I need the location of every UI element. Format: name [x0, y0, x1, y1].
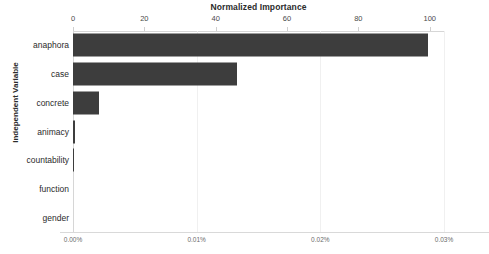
plot-bottom-rule: [60, 232, 489, 233]
bar-anaphora: [73, 34, 428, 57]
top-axis-tick-label: 60: [283, 14, 291, 23]
top-axis-tick-label: 0: [71, 14, 75, 23]
importance-bar-chart: Normalized Importance Independent Variab…: [0, 0, 489, 254]
category-label-animacy: animacy: [37, 127, 69, 137]
top-axis-tick-mark: [430, 27, 431, 31]
top-axis-tick-mark: [216, 27, 217, 31]
gridline: [197, 31, 198, 232]
bar-concrete: [73, 91, 99, 114]
top-axis-tick-mark: [144, 27, 145, 31]
category-label-gender: gender: [43, 213, 69, 223]
bottom-axis-tick-label: 0.02%: [311, 236, 329, 243]
category-label-countability: countability: [26, 155, 69, 165]
category-label-function: function: [39, 184, 69, 194]
top-axis-tick-label: 80: [354, 14, 362, 23]
gridline: [444, 31, 445, 232]
top-axis-tick-label: 20: [140, 14, 148, 23]
top-axis-tick-mark: [73, 27, 74, 31]
bar-case: [73, 63, 237, 86]
bar-animacy: [73, 120, 75, 143]
category-label-case: case: [51, 69, 69, 79]
category-label-concrete: concrete: [36, 98, 69, 108]
top-axis-tick-mark: [358, 27, 359, 31]
bottom-axis-tick-label: 0.01%: [187, 236, 205, 243]
top-axis-tick-label: 40: [212, 14, 220, 23]
bottom-axis-tick-label: 0.03%: [435, 236, 453, 243]
top-axis-tick-label: 100: [423, 14, 436, 23]
plot-area: [73, 31, 444, 232]
y-axis-title: Independent Variable: [11, 43, 20, 163]
bar-countability: [73, 149, 74, 172]
top-axis-tick-mark: [287, 27, 288, 31]
category-label-anaphora: anaphora: [33, 40, 69, 50]
gridline: [320, 31, 321, 232]
chart-title: Normalized Importance: [73, 2, 444, 12]
bottom-axis-tick-label: 0.00%: [64, 236, 82, 243]
